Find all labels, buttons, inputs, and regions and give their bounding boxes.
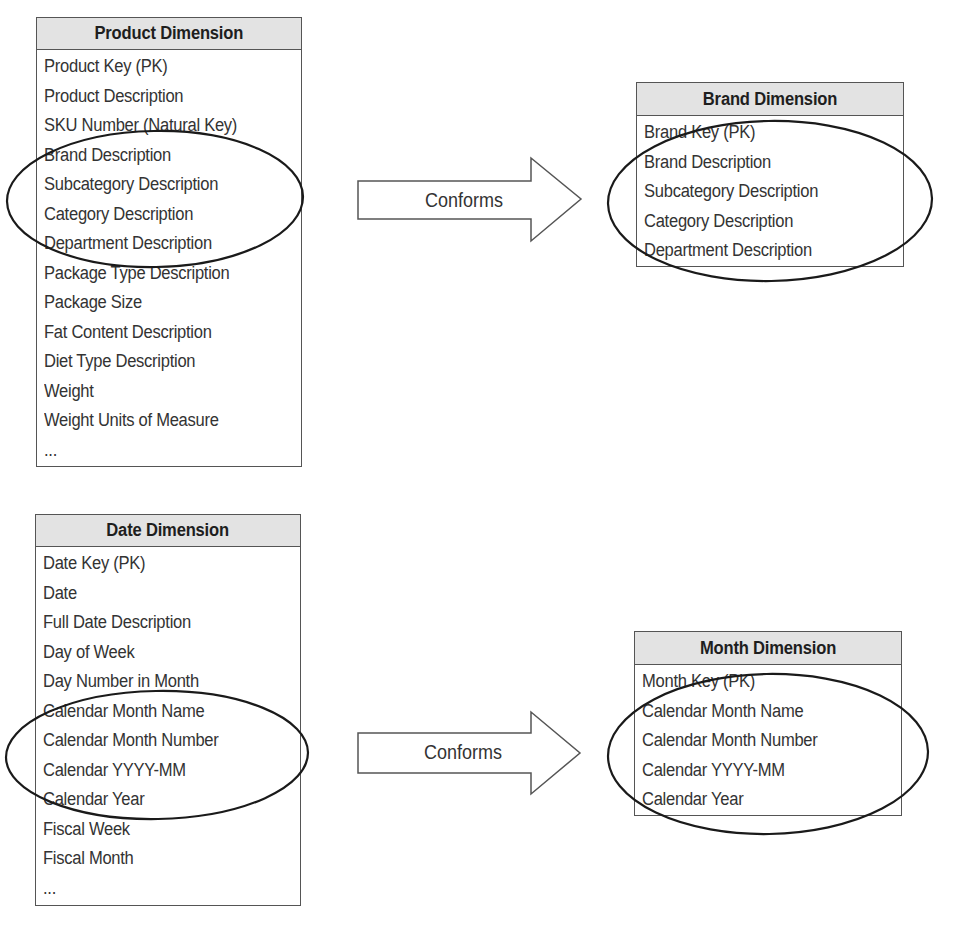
attribute-row: Full Date Description xyxy=(43,608,279,638)
attribute-row: Subcategory Description xyxy=(644,177,882,207)
month-dimension-header: Month Dimension xyxy=(635,632,901,665)
attribute-row: Fat Content Description xyxy=(44,318,280,348)
attribute-row: Subcategory Description xyxy=(44,170,280,200)
attribute-row: Day Number in Month xyxy=(43,667,279,697)
conforms-label: Conforms xyxy=(424,741,502,764)
attribute-row: Brand Description xyxy=(644,148,882,178)
conforms-label: Conforms xyxy=(425,189,503,212)
attribute-row: Fiscal Month xyxy=(43,844,279,874)
month-dimension-attributes: Month Key (PK) Calendar Month Name Calen… xyxy=(635,665,901,815)
date-dimension-title: Date Dimension xyxy=(107,520,230,541)
attribute-row: Fiscal Week xyxy=(43,815,279,845)
month-dimension-table: Month Dimension Month Key (PK) Calendar … xyxy=(634,631,902,816)
attribute-row: Category Description xyxy=(44,200,280,230)
date-dimension-header: Date Dimension xyxy=(36,515,300,547)
attribute-row: Calendar Month Name xyxy=(642,697,880,727)
attribute-row: Month Key (PK) xyxy=(642,667,880,697)
product-dimension-title: Product Dimension xyxy=(95,23,244,44)
product-dimension-header: Product Dimension xyxy=(37,18,301,50)
attribute-row: Department Description xyxy=(644,236,882,266)
product-dimension-attributes: Product Key (PK) Product Description SKU… xyxy=(37,50,301,465)
attribute-row: Product Description xyxy=(44,82,280,112)
attribute-row-ellipsis: ... xyxy=(44,436,280,466)
attribute-row: Calendar Month Number xyxy=(642,726,880,756)
attribute-row: Calendar YYYY-MM xyxy=(642,756,880,786)
attribute-row: Weight Units of Measure xyxy=(44,406,280,436)
attribute-row: Product Key (PK) xyxy=(44,52,280,82)
attribute-row: Weight xyxy=(44,377,280,407)
brand-dimension-attributes: Brand Key (PK) Brand Description Subcate… xyxy=(637,116,903,266)
attribute-row: Brand Key (PK) xyxy=(644,118,882,148)
brand-dimension-header: Brand Dimension xyxy=(637,83,903,116)
attribute-row: Calendar Month Name xyxy=(43,697,279,727)
month-dimension-title: Month Dimension xyxy=(700,638,836,659)
attribute-row: Diet Type Description xyxy=(44,347,280,377)
attribute-row: Category Description xyxy=(644,207,882,237)
brand-dimension-title: Brand Dimension xyxy=(703,89,837,110)
attribute-row: Calendar YYYY-MM xyxy=(43,756,279,786)
attribute-row-ellipsis: ... xyxy=(43,874,279,904)
attribute-row: Date Key (PK) xyxy=(43,549,279,579)
brand-dimension-table: Brand Dimension Brand Key (PK) Brand Des… xyxy=(636,82,904,267)
date-dimension-attributes: Date Key (PK) Date Full Date Description… xyxy=(36,547,300,903)
attribute-row: Package Type Description xyxy=(44,259,280,289)
date-dimension-table: Date Dimension Date Key (PK) Date Full D… xyxy=(35,514,301,906)
attribute-row: Department Description xyxy=(44,229,280,259)
attribute-row: SKU Number (Natural Key) xyxy=(44,111,280,141)
product-dimension-table: Product Dimension Product Key (PK) Produ… xyxy=(36,17,302,467)
attribute-row: Day of Week xyxy=(43,638,279,668)
attribute-row: Calendar Month Number xyxy=(43,726,279,756)
attribute-row: Date xyxy=(43,579,279,609)
attribute-row: Calendar Year xyxy=(642,785,880,815)
attribute-row: Package Size xyxy=(44,288,280,318)
attribute-row: Brand Description xyxy=(44,141,280,171)
attribute-row: Calendar Year xyxy=(43,785,279,815)
